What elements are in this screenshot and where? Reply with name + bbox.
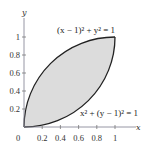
upper-curve-equation: (x − 1)² + y² = 1 [57,25,115,35]
y-tick-label: 0.2 [9,104,20,114]
x-tick-label: 0.6 [73,133,84,143]
y-axis-label: y [21,8,27,17]
y-tick-label: 0.4 [9,86,20,96]
x-tick-label: 0.4 [55,133,66,143]
x-tick-label: 0.2 [37,133,48,143]
x-tick-label: 0.8 [91,133,102,143]
y-tick-label: 1 [16,32,20,42]
lower-curve-equation: x² + (y − 1)² = 1 [80,108,138,118]
y-tick-label: 0.8 [9,50,20,60]
region-plot: x y 0 0.2 0.4 0.6 0.8 1 0.2 0.4 0.6 0.8 … [0,0,144,149]
origin-label: 0 [16,133,20,143]
y-tick-label: 0.6 [9,68,20,78]
x-axis-label: x [136,123,141,132]
x-tick-label: 1 [113,133,117,143]
